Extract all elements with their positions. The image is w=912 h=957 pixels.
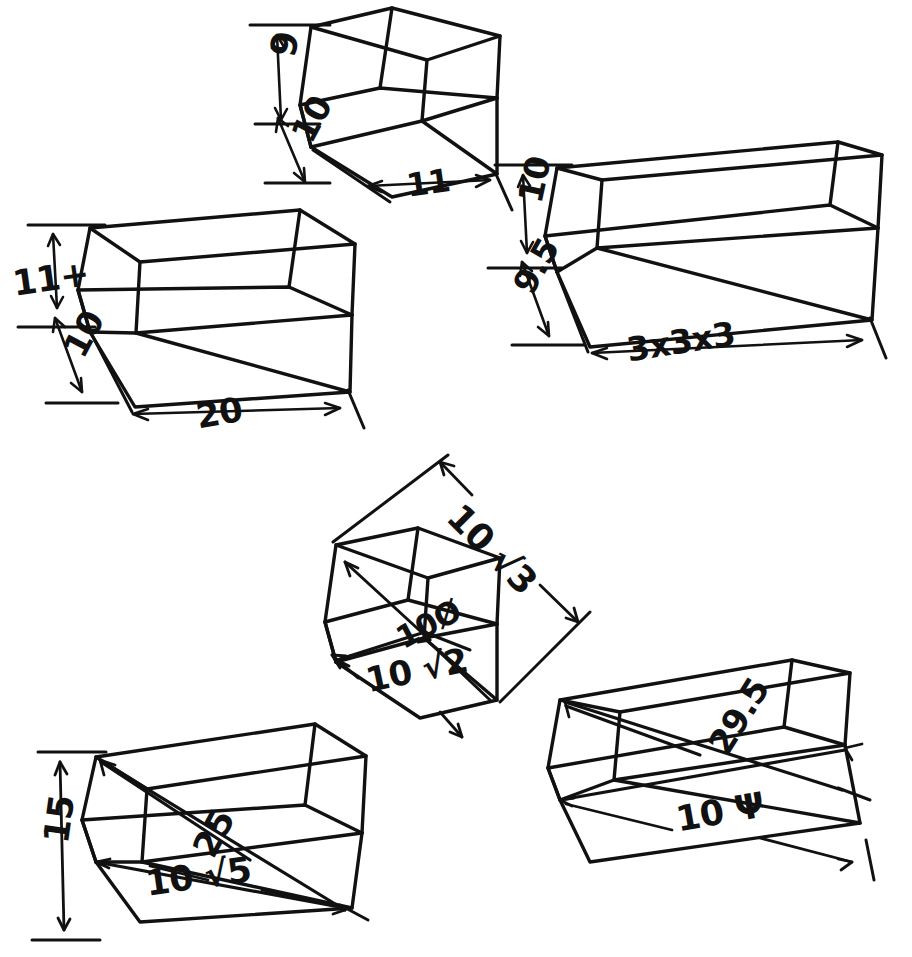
wireframe-drawing — [0, 0, 912, 957]
box-left-wireframe — [78, 210, 355, 407]
label-height-15: 15 — [36, 793, 82, 846]
label-width-11: 11 — [404, 161, 452, 205]
diagram-canvas: 9 10 11 11+ 10 20 10 9.5 3x3x3 10 √3 10 … — [0, 0, 912, 957]
label-width-20: 20 — [193, 389, 246, 436]
dim-15 — [32, 752, 106, 940]
